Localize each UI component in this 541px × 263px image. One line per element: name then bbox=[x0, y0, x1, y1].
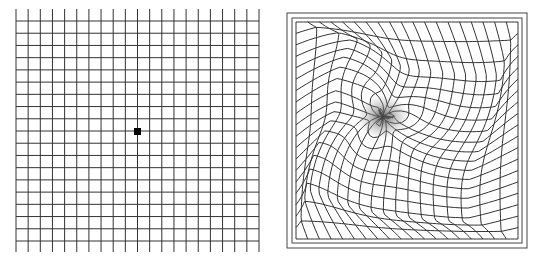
distorted-line-horizontal bbox=[296, 202, 518, 226]
distorted-amsler-grid bbox=[287, 13, 527, 248]
distorted-line-horizontal bbox=[296, 169, 518, 208]
central-scotoma-blur bbox=[357, 95, 409, 139]
distorted-line-vertical bbox=[461, 22, 496, 239]
fixation-dot bbox=[134, 128, 141, 135]
distorted-line-horizontal bbox=[296, 221, 518, 232]
amsler-grid-figure bbox=[0, 0, 541, 263]
distorted-line-horizontal bbox=[296, 33, 518, 63]
distorted-line-horizontal bbox=[296, 183, 518, 218]
